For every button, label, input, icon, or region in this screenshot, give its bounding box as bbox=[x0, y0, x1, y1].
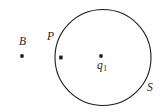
point-p-label: P bbox=[47, 31, 54, 43]
point-q1-marker bbox=[99, 54, 103, 58]
diagram-svg bbox=[0, 0, 162, 112]
point-b-label: B bbox=[19, 36, 26, 48]
charge-q1-label: q1 bbox=[97, 60, 107, 72]
circle-s-label: S bbox=[147, 82, 153, 94]
point-p-marker bbox=[59, 56, 62, 60]
charge-q1-symbol: q bbox=[97, 59, 103, 71]
charge-q1-subscript: 1 bbox=[103, 64, 107, 73]
figure-canvas: B P q1 S bbox=[0, 0, 162, 112]
point-b-marker bbox=[20, 54, 24, 58]
circle-s-boundary bbox=[55, 10, 151, 106]
